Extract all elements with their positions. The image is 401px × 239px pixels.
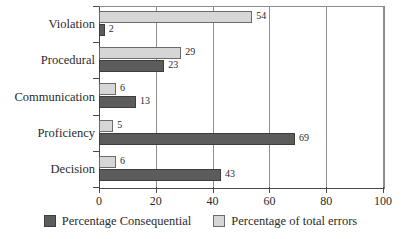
x-axis-tick-label: 100 [363, 194, 401, 208]
x-axis-tick-label: 20 [136, 194, 176, 208]
bar-value-total-errors-procedural: 29 [185, 46, 195, 58]
bar-group: 569 [0, 115, 401, 151]
bar-consequential-procedural [99, 60, 164, 72]
chart-legend: Percentage ConsequentialPercentage of to… [0, 214, 401, 228]
legend-item-2: Percentage of total errors [213, 214, 357, 228]
bar-total-errors-violation [99, 11, 252, 23]
legend-label: Percentage of total errors [231, 214, 357, 228]
legend-item-1: Percentage Consequential [44, 214, 191, 228]
bar-group: 542 [0, 6, 401, 42]
legend-label: Percentage Consequential [62, 214, 191, 228]
bar-value-consequential-proficiency: 69 [299, 132, 309, 144]
bar-value-total-errors-communication: 6 [120, 82, 125, 94]
x-axis-tick-label: 0 [79, 194, 119, 208]
bar-group: 643 [0, 151, 401, 187]
x-axis-tick [213, 187, 214, 193]
bar-consequential-communication [99, 96, 136, 108]
x-axis-tick [326, 187, 327, 193]
legend-swatch-icon [44, 215, 56, 227]
bar-value-consequential-communication: 13 [140, 95, 150, 107]
bar-total-errors-decision [99, 156, 116, 168]
x-axis-tick-label: 80 [306, 194, 346, 208]
bar-value-consequential-procedural: 23 [168, 59, 178, 71]
bar-group: 2923 [0, 42, 401, 78]
bar-consequential-violation [99, 24, 105, 36]
x-axis-tick [269, 187, 270, 193]
bar-total-errors-proficiency [99, 120, 113, 132]
bar-group: 613 [0, 78, 401, 114]
x-axis-tick [383, 187, 384, 193]
x-axis-tick [99, 187, 100, 193]
legend-swatch-icon [213, 215, 225, 227]
bar-chart: ViolationProceduralCommunicationProficie… [0, 0, 401, 239]
x-axis-tick [156, 187, 157, 193]
bar-total-errors-communication [99, 83, 116, 95]
bar-value-total-errors-violation: 54 [256, 10, 266, 22]
x-axis-tick-label: 40 [193, 194, 233, 208]
bar-value-total-errors-proficiency: 5 [117, 119, 122, 131]
bar-consequential-proficiency [99, 133, 295, 145]
x-axis-tick-label: 60 [249, 194, 289, 208]
bar-value-consequential-decision: 43 [225, 168, 235, 180]
bar-consequential-decision [99, 169, 221, 181]
bar-value-total-errors-decision: 6 [120, 155, 125, 167]
bar-value-consequential-violation: 2 [109, 23, 114, 35]
bar-total-errors-procedural [99, 47, 181, 59]
